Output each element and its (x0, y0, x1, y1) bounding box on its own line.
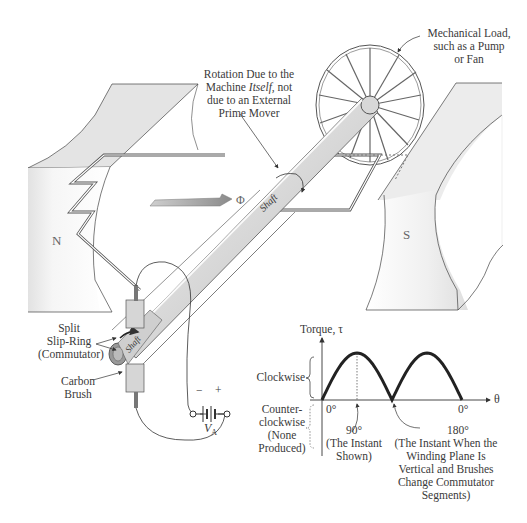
chart-clockwise-label: Clockwise (255, 371, 305, 384)
flux-arrow (150, 194, 232, 206)
mechanical-load-line-1: Mechanical Load, (416, 27, 522, 40)
battery-minus-label: − (196, 384, 203, 397)
annotation-180: 180° (The Instant When the Winding Plane… (386, 424, 506, 502)
north-pole-label: N (52, 233, 61, 249)
south-pole (366, 83, 503, 310)
rotation-line-1: Rotation Due to the (196, 68, 302, 81)
rotation-line-2-italic: Itself, (249, 81, 275, 93)
flux-label: Φ (236, 193, 245, 208)
ccw-line-3: (None (255, 429, 309, 442)
carbon-brush-top (126, 285, 144, 328)
chart-x-axis-label: θ (494, 393, 500, 406)
annotation-90-line-2: (The Instant (322, 437, 386, 450)
torque-curve (322, 353, 462, 400)
rotation-line-3: due to an External (196, 94, 302, 107)
north-pole (28, 84, 198, 312)
annotation-90-line-3: Shown) (322, 450, 386, 463)
slip-ring-line-2: Slip-Ring (38, 335, 100, 348)
south-pole-label: S (403, 227, 410, 243)
annotation-90: 90° (The Instant Shown) (322, 424, 386, 463)
rotation-label: Rotation Due to the Machine Itself, not … (196, 68, 302, 120)
annotation-180-line-1: 180° (386, 424, 506, 437)
annotation-180-line-5: Change Commutator (386, 476, 506, 489)
slip-ring-line-3: (Commutator) (38, 348, 100, 361)
annotation-180-line-4: Vertical and Brushes (386, 463, 506, 476)
carbon-brush-line-1: Carbon (56, 375, 100, 388)
carbon-brush-line-2: Brush (56, 388, 100, 401)
chart-x-tick-start: 0° (326, 403, 336, 416)
rotation-line-2a: Machine (206, 81, 249, 93)
annotation-90-line-1: 90° (322, 424, 386, 437)
chart-y-axis-label: Torque, τ (300, 323, 343, 336)
annotation-180-line-2: (The Instant When the (386, 437, 506, 450)
mechanical-load-label: Mechanical Load, such as a Pump or Fan (416, 27, 522, 66)
chart-x-tick-end: 0° (458, 403, 468, 416)
carbon-brush-bottom (126, 364, 144, 408)
mechanical-load-line-2: such as a Pump (416, 40, 522, 53)
ccw-line-4: Produced) (255, 442, 309, 455)
annotation-180-line-6: Segments) (386, 489, 506, 502)
rotation-line-2: Machine Itself, not (196, 81, 302, 94)
slip-ring-line-1: Split (38, 322, 100, 335)
battery-voltage-label: VA (204, 422, 217, 439)
chart-counter-clockwise-label: Counter- clockwise (None Produced) (255, 403, 309, 455)
carbon-brush-label: Carbon Brush (56, 375, 100, 401)
annotation-180-line-3: Winding Plane Is (386, 450, 506, 463)
mechanical-load-line-3: or Fan (416, 53, 522, 66)
rotation-line-2b: not (275, 81, 293, 93)
ccw-line-1: Counter- (255, 403, 309, 416)
rotation-line-4: Prime Mover (196, 107, 302, 120)
split-slip-ring-label: Split Slip-Ring (Commutator) (38, 322, 100, 361)
battery-voltage-subscript: A (211, 428, 217, 437)
ccw-line-2: clockwise (255, 416, 309, 429)
battery-plus-label: + (215, 384, 222, 397)
